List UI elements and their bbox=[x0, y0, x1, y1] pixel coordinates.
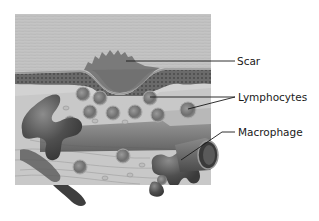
label-scar: Scar bbox=[237, 55, 260, 67]
label-macrophage: Macrophage bbox=[238, 126, 303, 138]
tissue-repair-illustration bbox=[0, 0, 319, 221]
label-lymphocytes: Lymphocytes bbox=[238, 91, 307, 103]
